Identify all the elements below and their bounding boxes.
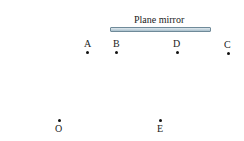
point-label-e: E [157,124,163,134]
point-d-dot [176,51,179,54]
point-o-dot [58,119,61,122]
point-e-dot [159,119,162,122]
point-label-o: O [55,124,62,134]
point-label-c: C [224,40,231,50]
point-a-dot [86,51,89,54]
point-label-a: A [84,39,91,49]
plane-mirror [110,27,211,32]
point-label-d: D [173,39,180,49]
point-label-b: B [113,39,120,49]
point-c-dot [227,52,230,55]
point-b-dot [115,51,118,54]
mirror-label: Plane mirror [134,14,184,25]
